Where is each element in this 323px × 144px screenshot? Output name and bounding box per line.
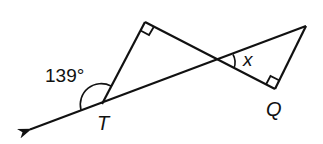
angle-x-arc [233, 55, 235, 69]
geometry-diagram: 139° T Q x [0, 0, 323, 144]
vertex-T-label: T [97, 112, 111, 134]
exterior-angle-label: 139° [45, 65, 84, 86]
vertex-Q-label: Q [266, 98, 282, 120]
angle-x-label: x [242, 49, 254, 70]
segment-T-to-top-vertex [102, 22, 145, 104]
